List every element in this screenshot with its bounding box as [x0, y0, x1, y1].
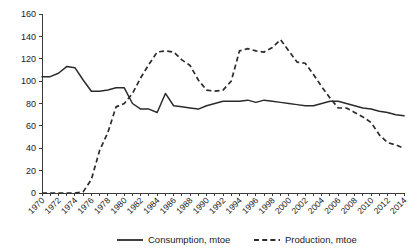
x-tick-label: 1970 [26, 195, 47, 216]
y-tick-label: 140 [21, 32, 36, 42]
x-tick-label: 1988 [174, 195, 195, 216]
y-tick-label: 0 [31, 188, 36, 198]
x-axis: 1970197219741976197819801982198419861988… [26, 193, 409, 216]
x-tick-label: 2000 [273, 195, 294, 216]
y-tick-label: 120 [21, 54, 36, 64]
y-tick-label: 100 [21, 76, 36, 86]
series-line-consumption [42, 67, 404, 116]
series-line-production [42, 40, 404, 193]
x-tick-label: 1978 [92, 195, 113, 216]
x-tick-label: 2004 [306, 195, 327, 216]
x-tick-label: 1994 [223, 195, 244, 216]
x-tick-label: 1976 [75, 195, 96, 216]
y-tick-label: 80 [26, 99, 36, 109]
legend-label-production: Production, mtoe [285, 234, 357, 245]
x-tick-label: 1998 [256, 195, 277, 216]
x-tick-label: 2008 [339, 195, 360, 216]
chart-legend: Consumption, mtoeProduction, mtoe [117, 234, 357, 245]
x-tick-label: 2006 [322, 195, 343, 216]
x-tick-label: 1980 [108, 195, 129, 216]
x-tick-label: 1992 [207, 195, 228, 216]
x-tick-label: 2002 [289, 195, 310, 216]
legend-label-consumption: Consumption, mtoe [148, 234, 230, 245]
x-tick-label: 1984 [141, 195, 162, 216]
y-tick-label: 60 [26, 121, 36, 131]
y-tick-label: 160 [21, 9, 36, 19]
x-tick-label: 1982 [125, 195, 146, 216]
line-chart: 020406080100120140160 197019721974197619… [0, 0, 417, 251]
chart-container: 020406080100120140160 197019721974197619… [0, 0, 417, 251]
x-tick-label: 2014 [388, 195, 409, 216]
x-tick-label: 1996 [240, 195, 261, 216]
y-axis: 020406080100120140160 [21, 9, 42, 198]
x-tick-label: 1972 [42, 195, 63, 216]
y-tick-label: 20 [26, 166, 36, 176]
x-tick-label: 2010 [355, 195, 376, 216]
x-tick-label: 1974 [59, 195, 80, 216]
y-tick-label: 40 [26, 143, 36, 153]
x-tick-label: 1990 [191, 195, 212, 216]
data-series-group [42, 40, 404, 193]
x-tick-label: 1986 [158, 195, 179, 216]
x-tick-label: 2012 [372, 195, 393, 216]
